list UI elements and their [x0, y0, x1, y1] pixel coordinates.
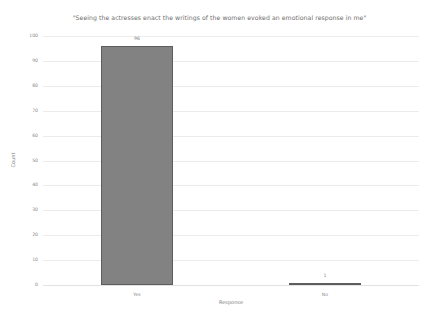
gridline — [43, 36, 419, 37]
gridline — [43, 86, 419, 87]
chart-title: "Seeing the actresses enact the writings… — [0, 14, 439, 21]
y-axis-tick-label: 100 — [29, 34, 38, 39]
gridline — [43, 235, 419, 236]
y-axis-tick-label: 50 — [32, 158, 38, 163]
gridline — [43, 260, 419, 261]
x-axis-tick-label: Yes — [101, 293, 172, 298]
bar[interactable] — [289, 283, 360, 285]
bar-chart: "Seeing the actresses enact the writings… — [0, 0, 439, 328]
y-axis-tick-label: 90 — [32, 59, 38, 64]
bar-group[interactable]: 1No — [289, 36, 360, 285]
bar-value-label: 96 — [101, 37, 172, 42]
bar-value-label: 1 — [289, 274, 360, 279]
y-axis-tick-label: 40 — [32, 183, 38, 188]
gridline — [43, 161, 419, 162]
gridline — [43, 136, 419, 137]
x-axis-title: Response — [43, 299, 419, 305]
y-axis-tick-label: 30 — [32, 208, 38, 213]
y-axis-tick-label: 0 — [35, 283, 38, 288]
y-axis-tick-label: 80 — [32, 84, 38, 89]
gridline — [43, 210, 419, 211]
gridline — [43, 185, 419, 186]
y-axis-tick-label: 70 — [32, 108, 38, 113]
y-axis-tick-label: 60 — [32, 133, 38, 138]
y-axis-tick-label: 10 — [32, 258, 38, 263]
x-axis-tick-label: No — [289, 293, 360, 298]
y-axis-title: Count — [10, 153, 16, 168]
bar[interactable] — [101, 46, 172, 285]
gridline — [43, 111, 419, 112]
gridline — [43, 61, 419, 62]
gridline — [43, 285, 419, 286]
y-axis-tick-label: 20 — [32, 233, 38, 238]
bar-group[interactable]: 96Yes — [101, 36, 172, 285]
plot-area: 010203040506070809010096Yes1No — [43, 36, 419, 285]
